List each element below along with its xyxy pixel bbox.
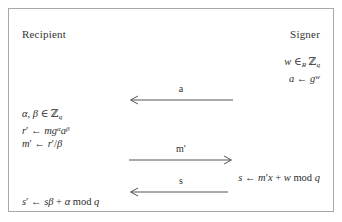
party-label-recipient: Recipient	[22, 28, 66, 40]
signer-signing-formula: s ← m′x + w mod q	[238, 172, 320, 185]
recipient-blinding-formulas: α, β ∈ ℤq r′ ← mgαaβ m′ ← r′/β	[22, 107, 70, 150]
formula-s-assign: s ← m′x + w mod q	[238, 172, 320, 185]
message-label-a: a	[129, 83, 233, 94]
formula-r-prime-assign: r′ ← mgαaβ	[22, 123, 70, 138]
message-arrow-a: a	[129, 85, 233, 107]
formula-a-assign: a ← gw	[284, 71, 320, 86]
message-arrow-s: s	[129, 177, 233, 199]
party-label-signer: Signer	[290, 28, 320, 40]
formula-alpha-beta-random: α, β ∈ ℤq	[22, 107, 70, 123]
message-label-m-prime: m′	[129, 143, 233, 154]
protocol-diagram-frame: Recipient Signer w ∈R ℤq a ← gw α, β ∈ ℤ…	[8, 8, 334, 212]
message-label-s: s	[129, 175, 233, 186]
message-arrow-m-prime: m′	[129, 145, 233, 167]
formula-w-random: w ∈R ℤq	[284, 55, 320, 71]
recipient-unblinding-formula: s′ ← sβ + α mod q	[22, 196, 99, 209]
signer-init-formulas: w ∈R ℤq a ← gw	[284, 55, 320, 86]
formula-m-prime-assign: m′ ← r′/β	[22, 138, 70, 151]
formula-s-prime-assign: s′ ← sβ + α mod q	[22, 196, 99, 209]
